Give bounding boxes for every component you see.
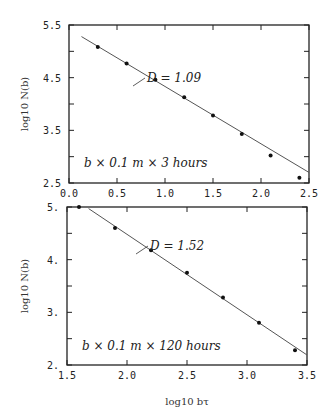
y-tick-label: 3. <box>47 307 59 318</box>
x-tick-label: 2.5 <box>178 370 196 381</box>
x-tick-label: 3.5 <box>298 370 316 381</box>
y-tick-label: 2.5 <box>43 178 61 189</box>
data-point <box>293 348 297 352</box>
fit-annotation: D = 1.09 <box>146 71 201 85</box>
y-tick-label: 2. <box>47 360 59 371</box>
data-point <box>182 95 186 99</box>
figure: 0.00.51.01.52.02.52.53.54.55.5D = 1.09b … <box>0 0 335 414</box>
x-axis-label: log10 bτ <box>165 396 209 407</box>
x-tick-label: 0.0 <box>60 188 78 199</box>
data-point <box>269 154 273 158</box>
data-point <box>185 271 189 275</box>
x-tick-label: 2.5 <box>300 188 318 199</box>
y-tick-label: 5. <box>47 202 59 213</box>
data-point <box>297 176 301 180</box>
y-axis-label: log10 N(b) <box>19 77 30 132</box>
y-tick-label: 4.5 <box>43 73 61 84</box>
data-point <box>240 132 244 136</box>
y-tick-label: 4. <box>47 255 59 266</box>
x-tick-label: 3.0 <box>238 370 256 381</box>
y-axis-label: log10 N(b) <box>19 259 30 314</box>
x-tick-label: 1.0 <box>156 188 174 199</box>
x-tick-label: 2.0 <box>252 188 270 199</box>
bottom-plot: 1.52.02.53.03.52.3.4.5.D = 1.52b × 0.1 m… <box>19 202 316 407</box>
data-point <box>96 45 100 49</box>
data-point <box>211 114 215 118</box>
fit-line <box>89 209 307 355</box>
data-point <box>125 61 129 65</box>
y-tick-label: 3.5 <box>43 125 61 136</box>
data-point <box>113 226 117 230</box>
condition-label: b × 0.1 m × 3 hours <box>84 156 207 170</box>
x-tick-label: 1.5 <box>204 188 222 199</box>
data-point <box>221 296 225 300</box>
data-point <box>77 205 81 209</box>
data-point <box>257 321 261 325</box>
condition-label: b × 0.1 m × 120 hours <box>82 339 221 353</box>
fit-line <box>81 37 309 173</box>
fit-annotation: D = 1.52 <box>149 239 204 253</box>
x-tick-label: 2.0 <box>118 370 136 381</box>
x-tick-label: 0.5 <box>108 188 126 199</box>
y-tick-label: 5.5 <box>43 20 61 31</box>
x-tick-label: 1.5 <box>58 370 76 381</box>
top-plot: 0.00.51.01.52.02.52.53.54.55.5D = 1.09b … <box>19 20 318 199</box>
